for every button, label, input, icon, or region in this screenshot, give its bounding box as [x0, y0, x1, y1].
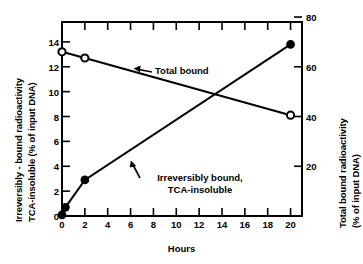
y-left-tick-label-8: 8 [43, 111, 59, 122]
x-axis-title: Hours [0, 243, 363, 254]
top-axis-ticks [85, 22, 291, 30]
y-left-axis-ticks [62, 42, 70, 216]
x-tick-label-18: 18 [262, 219, 273, 230]
y-right-tick-label-60: 60 [306, 61, 317, 72]
y-left-tick-label-6: 6 [43, 136, 59, 147]
series-total-bound-line [62, 52, 291, 115]
annotation-irreversibly-bound-line2: TCA-insoluble [168, 184, 232, 195]
x-tick-label-16: 16 [240, 219, 251, 230]
y-left-tick-label-2: 2 [43, 186, 59, 197]
x-tick-label-2: 2 [82, 219, 87, 230]
y-axis-left-title-line1: Irreversibly - bound radioactivity [13, 78, 24, 222]
y-right-tick-label-20: 20 [306, 161, 317, 172]
x-tick-label-20: 20 [285, 219, 296, 230]
irreversibly-bound-arrow-icon [130, 161, 140, 178]
annotation-total-bound: Total bound [155, 65, 209, 76]
y-axis-right-title-line2: (% of input DNA) [350, 154, 361, 228]
x-axis-ticks [62, 208, 291, 216]
x-tick-label-10: 10 [171, 219, 182, 230]
x-tick-label-14: 14 [217, 219, 228, 230]
x-tick-label-12: 12 [194, 219, 205, 230]
y-left-tick-label-0: 0 [43, 211, 59, 222]
x-tick-label-0: 0 [59, 219, 64, 230]
y-axis-right-title-line1: Total bound radioactivity [337, 118, 348, 228]
y-left-tick-label-10: 10 [43, 86, 59, 97]
y-axis-left-title-line2: TCA-insoluble (% of input DNA) [26, 83, 37, 222]
annotation-irreversibly-bound-line1: Irreversibly bound, [157, 172, 243, 183]
y-left-tick-label-14: 14 [43, 36, 59, 47]
total-bound-arrow-icon [134, 66, 152, 73]
x-tick-label-8: 8 [151, 219, 156, 230]
y-right-tick-label-40: 40 [306, 111, 317, 122]
x-tick-label-4: 4 [105, 219, 110, 230]
y-right-tick-label-80: 80 [306, 12, 317, 23]
y-left-tick-label-12: 12 [43, 61, 59, 72]
x-tick-label-6: 6 [128, 219, 133, 230]
y-left-tick-label-4: 4 [43, 161, 59, 172]
figure-panel: 0 2 4 6 8 10 12 14 16 18 20 0 2 4 6 8 10… [0, 0, 363, 264]
y-right-axis-ticks [294, 17, 302, 166]
